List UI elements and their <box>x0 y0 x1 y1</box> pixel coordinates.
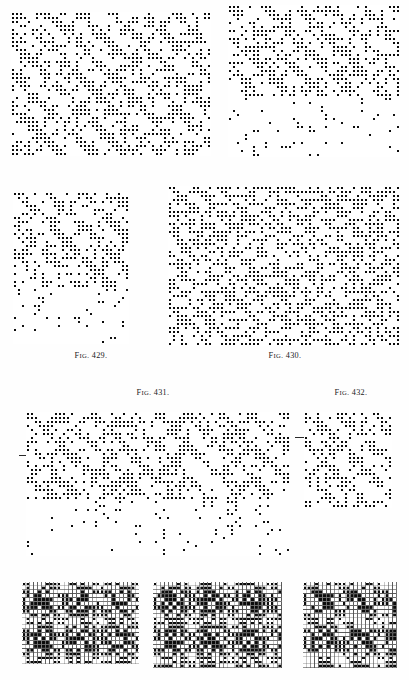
caption-fig-432: FIG. 432. <box>306 388 396 397</box>
caption-number: 432. <box>349 388 367 397</box>
figure-bottom-left-grid <box>22 582 139 664</box>
caption-number: 430. <box>283 351 301 360</box>
caption-fig-431: FIG. 431. <box>108 388 198 397</box>
caption-prefix-smallcaps: IG. <box>273 352 283 359</box>
figure-432-grid <box>304 412 392 508</box>
caption-number: 431. <box>151 388 169 397</box>
caption-fig-430: FIG. 430. <box>240 351 330 360</box>
figure-bottom-center <box>153 582 282 668</box>
figure-429-grid <box>13 192 129 344</box>
figure-429 <box>13 192 129 344</box>
figure-top-right <box>228 5 400 157</box>
figure-430-grid <box>168 186 400 346</box>
caption-prefix-smallcaps: IG. <box>141 389 151 396</box>
caption-prefix-smallcaps: IG. <box>339 389 349 396</box>
caption-fig-429: FIG. 429. <box>46 351 136 360</box>
figure-bottom-right <box>303 582 397 668</box>
tick-fig-431-left <box>19 455 26 456</box>
figure-top-left-grid <box>11 12 211 156</box>
figure-top-left <box>11 12 211 156</box>
caption-prefix-smallcaps: IG. <box>79 352 89 359</box>
caption-number: 429. <box>89 351 107 360</box>
figure-431-grid <box>26 412 290 556</box>
figure-430 <box>168 186 400 346</box>
figure-bottom-right-grid <box>303 582 397 668</box>
figure-431 <box>26 412 290 556</box>
figure-432 <box>304 412 392 508</box>
weave-design-plate: FIG. 429.FIG. 430.FIG. 431.FIG. 432. <box>0 0 409 680</box>
figure-bottom-center-grid <box>153 582 282 668</box>
figure-top-right-grid <box>228 5 400 157</box>
tick-fig-432-left <box>295 437 304 438</box>
figure-bottom-left <box>22 582 139 664</box>
